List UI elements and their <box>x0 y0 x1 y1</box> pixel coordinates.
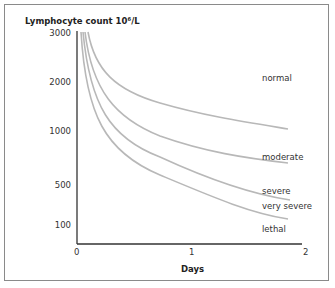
chart-plot <box>0 0 335 288</box>
curve-very-severe <box>81 32 288 219</box>
label-severe: severe <box>262 186 290 196</box>
y-axis-label: Lymphocyte count 10⁶/L <box>25 16 140 26</box>
y-tick-2000: 2000 <box>49 77 71 87</box>
curve-severe <box>83 32 290 200</box>
y-tick-100: 100 <box>55 220 71 230</box>
label-moderate: moderate <box>262 152 303 162</box>
x-axis-label: Days <box>181 264 204 274</box>
x-tick-2: 2 <box>303 247 308 257</box>
x-tick-0: 0 <box>74 247 79 257</box>
y-tick-500: 500 <box>55 180 71 190</box>
y-tick-3000: 3000 <box>49 28 71 38</box>
curve-normal <box>88 32 288 129</box>
label-very-severe: very severe <box>262 201 312 211</box>
x-tick-1: 1 <box>189 247 194 257</box>
label-normal: normal <box>262 73 292 83</box>
y-tick-1000: 1000 <box>49 126 71 136</box>
curve-moderate <box>85 32 288 163</box>
label-lethal: lethal <box>262 224 286 234</box>
